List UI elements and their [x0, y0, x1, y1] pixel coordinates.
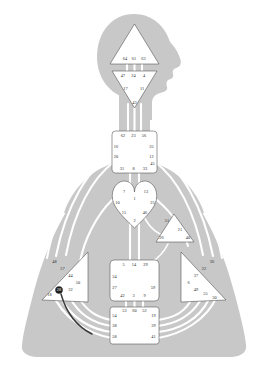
gate-21[interactable]: 21: [178, 227, 182, 232]
gate-31[interactable]: 31: [120, 166, 124, 171]
gate-1[interactable]: 1: [133, 196, 135, 201]
gate-2[interactable]: 2: [133, 218, 135, 223]
gate-61[interactable]: 61: [132, 56, 136, 61]
gate-32[interactable]: 32: [68, 287, 72, 292]
bodygraph-canvas: 6461634724417114362235616352012453183371…: [0, 0, 267, 378]
gate-39[interactable]: 39: [151, 323, 155, 328]
gate-42[interactable]: 42: [120, 293, 124, 298]
gate-19[interactable]: 19: [151, 313, 155, 318]
gate-20[interactable]: 20: [114, 154, 118, 159]
gate-29[interactable]: 29: [143, 262, 147, 267]
gate-10[interactable]: 10: [115, 200, 119, 205]
gate-22[interactable]: 22: [202, 266, 206, 271]
gate-40[interactable]: 40: [186, 235, 190, 240]
gate-8[interactable]: 8: [132, 166, 134, 171]
gate-45[interactable]: 45: [150, 161, 154, 166]
gate-62[interactable]: 62: [121, 133, 125, 138]
gate-33[interactable]: 33: [143, 166, 147, 171]
gate-25[interactable]: 25: [150, 200, 154, 205]
gate-49[interactable]: 49: [194, 287, 198, 292]
gate-28[interactable]: 28: [57, 287, 61, 292]
gate-9[interactable]: 9: [143, 293, 145, 298]
gate-53[interactable]: 53: [122, 308, 126, 313]
bodygraph-chart: 6461634724417114362235616352012453183371…: [0, 0, 267, 378]
gate-30[interactable]: 30: [212, 295, 216, 300]
gate-59[interactable]: 59: [151, 285, 155, 290]
gate-52[interactable]: 52: [142, 308, 146, 313]
gate-58[interactable]: 58: [112, 334, 116, 339]
gate-41[interactable]: 41: [151, 334, 155, 339]
gate-55[interactable]: 55: [203, 291, 207, 296]
gate-18[interactable]: 18: [47, 292, 51, 297]
gate-12[interactable]: 12: [149, 154, 153, 159]
gate-60[interactable]: 60: [132, 308, 136, 313]
gate-43[interactable]: 43: [132, 100, 136, 105]
gate-35[interactable]: 35: [149, 144, 153, 149]
gate-51[interactable]: 51: [165, 218, 169, 223]
gate-63[interactable]: 63: [141, 56, 145, 61]
gate-38[interactable]: 38: [112, 323, 116, 328]
gate-11[interactable]: 11: [140, 86, 144, 91]
gate-48[interactable]: 48: [52, 259, 56, 264]
gate-13[interactable]: 13: [144, 189, 148, 194]
gate-23[interactable]: 23: [131, 133, 135, 138]
gate-50[interactable]: 50: [76, 280, 80, 285]
gate-3[interactable]: 3: [132, 293, 134, 298]
gate-15[interactable]: 15: [122, 210, 126, 215]
gate-5[interactable]: 5: [122, 262, 124, 267]
